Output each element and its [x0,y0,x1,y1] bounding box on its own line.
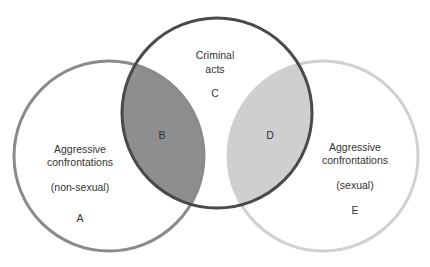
left-circle-line2: confrontations [47,156,113,168]
venn-diagram: Criminal acts C Aggressive confrontation… [0,0,430,267]
criminal-acts-line2: acts [205,63,224,75]
right-circle-line3: (sexual) [336,179,373,191]
left-circle-line1: Aggressive [54,143,106,155]
region-e-label: E [351,204,358,216]
region-c-label: C [211,87,219,99]
region-a-label: A [76,212,83,224]
left-circle-line3: (non-sexual) [51,181,109,193]
right-circle-line2: confrontations [322,154,388,166]
region-d-label: D [266,129,274,141]
right-circle-line1: Aggressive [329,141,381,153]
region-b-label: B [158,129,165,141]
criminal-acts-line1: Criminal [196,49,235,61]
